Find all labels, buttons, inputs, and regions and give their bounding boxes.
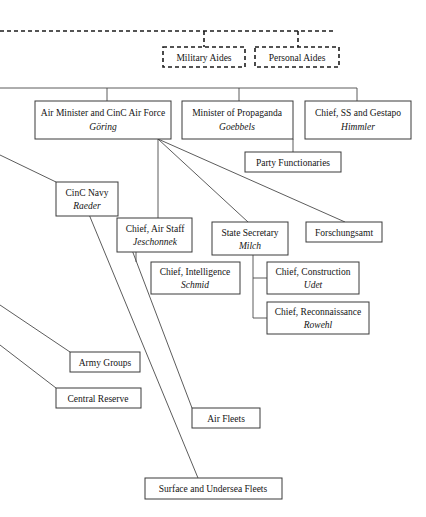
link-left-edge-to-army-groups	[0, 305, 70, 352]
node-propaganda-person: Goebbels	[219, 122, 255, 132]
node-air-minister-title: Air Minister and CinC Air Force	[41, 108, 165, 118]
node-surface-undersea[interactable]: Surface and Undersea Fleets	[145, 478, 282, 499]
node-military-aides-title: Military Aides	[176, 53, 231, 63]
node-propaganda-title: Minister of Propaganda	[192, 108, 282, 118]
node-central-reserve-title: Central Reserve	[68, 394, 129, 404]
node-state-secretary[interactable]: State Secretary Milch	[212, 222, 288, 255]
node-construction[interactable]: Chief, Construction Udet	[267, 262, 359, 294]
org-chart-diagram: Military Aides Personal Aides Air Minist…	[0, 0, 426, 517]
node-ss-gestapo-title: Chief, SS and Gestapo	[315, 108, 401, 118]
node-surface-undersea-title: Surface and Undersea Fleets	[159, 484, 268, 494]
node-air-fleets[interactable]: Air Fleets	[192, 408, 260, 428]
link-left-edge-to-cinc-navy	[0, 155, 56, 182]
node-air-minister-box	[35, 101, 171, 139]
node-personal-aides-title: Personal Aides	[269, 53, 326, 63]
node-state-secretary-person: Milch	[238, 241, 261, 251]
node-construction-person: Udet	[304, 280, 323, 290]
node-intelligence[interactable]: Chief, Intelligence Schmid	[151, 262, 240, 294]
node-forschungsamt[interactable]: Forschungsamt	[306, 222, 382, 242]
link-air-minister-to-state-secretary	[158, 139, 248, 222]
node-air-minister-person: Göring	[89, 122, 117, 132]
node-ss-gestapo-box	[305, 101, 411, 139]
node-propaganda[interactable]: Minister of Propaganda Goebbels	[182, 101, 293, 139]
node-party-functionaries-title: Party Functionaries	[256, 158, 330, 168]
node-propaganda-box	[182, 101, 293, 139]
node-ss-gestapo[interactable]: Chief, SS and Gestapo Himmler	[305, 101, 411, 139]
node-military-aides[interactable]: Military Aides	[163, 47, 245, 67]
node-reconnaissance[interactable]: Chief, Reconnaissance Rowehl	[267, 302, 369, 334]
node-reconnaissance-title: Chief, Reconnaissance	[275, 307, 362, 317]
node-state-secretary-title: State Secretary	[221, 228, 278, 238]
node-air-staff[interactable]: Chief, Air Staff Jeschonnek	[117, 218, 192, 252]
node-party-functionaries[interactable]: Party Functionaries	[245, 152, 341, 172]
node-personal-aides[interactable]: Personal Aides	[255, 47, 339, 67]
node-air-staff-person: Jeschonnek	[133, 237, 178, 247]
node-forschungsamt-title: Forschungsamt	[315, 228, 373, 238]
node-ss-gestapo-person: Himmler	[340, 122, 375, 132]
node-cinc-navy-person: Raeder	[72, 201, 101, 211]
node-air-fleets-title: Air Fleets	[207, 414, 245, 424]
node-central-reserve[interactable]: Central Reserve	[56, 388, 141, 408]
node-construction-title: Chief, Construction	[276, 267, 351, 277]
connector-lines	[0, 31, 357, 478]
node-air-staff-title: Chief, Air Staff	[126, 224, 186, 234]
node-intelligence-person: Schmid	[181, 280, 209, 290]
node-army-groups-title: Army Groups	[79, 358, 132, 368]
node-reconnaissance-person: Rowehl	[303, 320, 333, 330]
org-chart-canvas: Military Aides Personal Aides Air Minist…	[0, 0, 426, 517]
node-cinc-navy-title: CinC Navy	[65, 188, 108, 198]
node-cinc-navy[interactable]: CinC Navy Raeder	[56, 182, 118, 216]
node-intelligence-title: Chief, Intelligence	[160, 267, 231, 277]
link-air-minister-to-forschungsamt	[158, 139, 345, 222]
node-air-minister[interactable]: Air Minister and CinC Air Force Göring	[35, 101, 171, 139]
link-left-edge-to-central-reserve	[0, 345, 56, 388]
node-army-groups[interactable]: Army Groups	[70, 352, 140, 372]
